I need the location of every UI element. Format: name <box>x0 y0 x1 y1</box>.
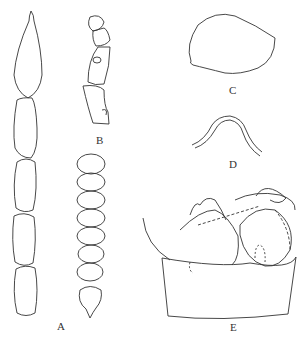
panel-d-drawing <box>192 116 262 156</box>
panel-a2-drawing <box>77 154 105 318</box>
panel-c-drawing <box>189 14 275 73</box>
panel-label-a: A <box>57 320 65 332</box>
panel-label-c: C <box>229 84 236 96</box>
panel-label-b: B <box>96 134 103 146</box>
panel-e-drawing <box>143 188 296 318</box>
panel-label-e: E <box>230 321 237 333</box>
figure-plate <box>0 0 303 337</box>
panel-a-drawing <box>13 11 42 316</box>
panel-b-drawing <box>83 16 110 124</box>
panel-label-d: D <box>229 158 237 170</box>
